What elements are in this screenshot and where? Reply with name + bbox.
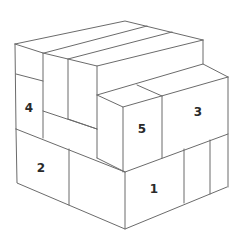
cube-puzzle-diagram: 1 2 3 4 5 — [0, 0, 240, 243]
label-block-3: 3 — [194, 105, 202, 119]
cube-drawing: 1 2 3 4 5 — [0, 0, 240, 243]
label-block-5: 5 — [138, 122, 146, 136]
label-block-4: 4 — [25, 101, 33, 115]
label-block-2: 2 — [37, 161, 45, 175]
label-block-1: 1 — [150, 182, 158, 196]
